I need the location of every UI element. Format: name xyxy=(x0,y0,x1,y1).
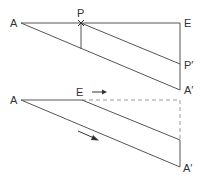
label-A-prime-bottom: A′ xyxy=(183,162,192,174)
top-diagram xyxy=(21,20,180,90)
label-A-prime-top: A′ xyxy=(184,84,193,96)
label-E-top: E xyxy=(184,17,191,29)
diagonal-A-A-prime-bottom xyxy=(21,100,180,167)
bottom-diagram xyxy=(21,100,180,167)
label-P-prime: P′ xyxy=(184,59,193,71)
label-A-top: A xyxy=(10,17,18,29)
arrow-right-icon xyxy=(92,90,107,95)
label-A-bottom: A xyxy=(10,94,18,106)
label-E-bottom: E xyxy=(76,86,83,98)
diagonal-E-shifted xyxy=(82,100,180,140)
diagonal-A-A-prime xyxy=(21,23,180,90)
diagonal-P-P-prime xyxy=(81,23,180,64)
arrow-diagonal-icon xyxy=(78,131,99,141)
diagram-canvas: A P E P′ A′ A E A′ xyxy=(0,0,202,180)
label-P: P xyxy=(77,7,84,19)
